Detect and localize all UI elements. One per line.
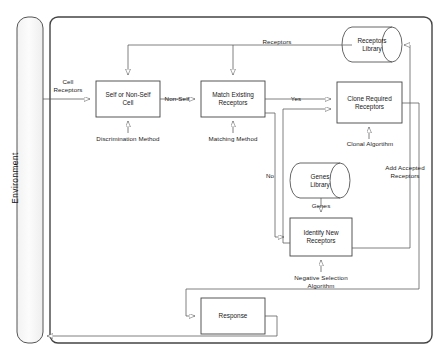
edge-label-cell-receptors: Cell Receptors [40, 78, 96, 93]
edge-label-genes: Genes [297, 202, 345, 210]
box-label-line2: Cell [105, 99, 150, 107]
edge-label-no: No [259, 172, 281, 180]
edge-label-matching-method: Matching Method [196, 135, 270, 143]
edge-label-line1: Clonal Algortihm [334, 140, 406, 148]
cylinder-label-line2: Library [310, 181, 330, 189]
edge-label-line1: Discrimination Method [84, 135, 172, 143]
box-label-match-existing-receptors: Match Existing Receptors [201, 81, 265, 117]
box-label-line2: Receptors [303, 237, 338, 245]
edge-label-receptors: Receptors [247, 38, 307, 46]
diagram-canvas: Environment Self or Non-Self Cell Match … [0, 0, 443, 360]
edge-label-line1: Add Accepted [372, 164, 438, 172]
box-label-line1: Identify New [303, 229, 338, 237]
edge-label-line1: Cell [40, 78, 96, 86]
edge-label-negative-selection-algorithm: Negative Selection Algorithm [280, 274, 362, 289]
edge-label-non-self: Non-Self [152, 95, 202, 103]
edge-label-line2: Algorithm [280, 282, 362, 290]
cylinder-label-receptors-library: Receptors Library [347, 27, 397, 62]
edge-label-line1: Non-Self [152, 95, 202, 103]
edge-label-line2: Receptors [372, 172, 438, 180]
cylinder-label-line1: Genes [310, 173, 330, 181]
edge-label-line1: Yes [273, 95, 319, 103]
cylinder-label-line2: Library [357, 45, 386, 53]
edge-label-line1: No [259, 172, 281, 180]
box-label-line2: Receptors [347, 103, 391, 111]
box-label-identify-new-receptors: Identify New Receptors [290, 218, 352, 256]
box-label-clone-required-receptors: Clone Required Receptors [337, 82, 402, 123]
box-label-line2: Receptors [212, 99, 254, 107]
cylinder-label-genes-library: Genes Library [295, 163, 345, 198]
edge-label-discrimination-method: Discrimination Method [84, 135, 172, 143]
environment-panel [17, 17, 43, 343]
edge-label-line1: Matching Method [196, 135, 270, 143]
edge-label-clonal-algorithm: Clonal Algortihm [334, 140, 406, 148]
box-label-line1: Response [219, 312, 248, 320]
cylinder-label-line1: Receptors [357, 37, 386, 45]
edge-label-line1: Genes [297, 202, 345, 210]
edge-label-line2: Receptors [40, 86, 96, 94]
edge-label-line1: Negative Selection [280, 274, 362, 282]
box-label-response: Response [201, 298, 265, 334]
box-label-line1: Match Existing [212, 91, 254, 99]
box-label-self-or-nonself-cell: Self or Non-Self Cell [96, 81, 160, 117]
environment-label: Environment [10, 148, 20, 208]
system-frame [50, 17, 432, 343]
box-label-line1: Clone Required [347, 95, 391, 103]
edge-label-add-accepted-receptors: Add Accepted Receptors [372, 164, 438, 179]
box-label-line1: Self or Non-Self [105, 91, 150, 99]
edge-label-line1: Receptors [247, 38, 307, 46]
edge-label-yes: Yes [273, 95, 319, 103]
